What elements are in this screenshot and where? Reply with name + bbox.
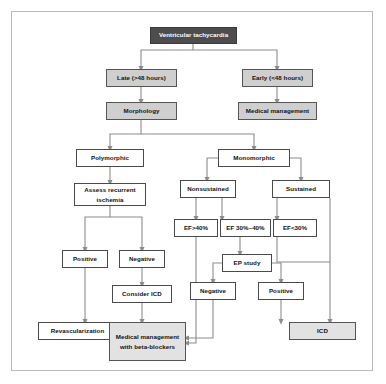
node-icd: ICD <box>289 322 356 340</box>
node-early: Early (<48 hours) <box>242 69 313 87</box>
node-morphology: Morphology <box>106 102 177 120</box>
node-ef-under-30: EF<30% <box>273 219 317 237</box>
node-medical-management-beta-blockers: Medical management with beta-blockers <box>109 322 186 361</box>
node-ep-positive: Positive <box>258 282 304 300</box>
node-ischemia-negative: Negative <box>119 250 165 268</box>
node-assess-recurrent-ischemia: Assess recurrent ischemia <box>74 183 146 206</box>
node-ep-negative: Negative <box>190 282 236 300</box>
node-ep-study: EP study <box>222 254 272 272</box>
node-sustained: Sustained <box>272 180 330 198</box>
node-late: Late (>48 hours) <box>106 69 177 87</box>
node-monomorphic: Monomorphic <box>218 149 290 167</box>
node-polymorphic: Polymorphic <box>76 149 144 167</box>
node-consider-icd: Consider ICD <box>112 285 172 303</box>
node-nonsustained: Nonsustained <box>180 180 236 198</box>
node-revascularization: Revascularization <box>38 322 117 340</box>
node-ischemia-positive: Positive <box>62 250 108 268</box>
node-ef-over-40: EF>40% <box>174 219 218 237</box>
node-medical-management: Medical management <box>238 102 317 120</box>
flowchart-canvas: Ventricular tachycardia Late (>48 hours)… <box>0 0 386 384</box>
node-ventricular-tachycardia: Ventricular tachycardia <box>150 27 237 44</box>
node-ef-30-40: EF 30%–40% <box>220 219 271 237</box>
